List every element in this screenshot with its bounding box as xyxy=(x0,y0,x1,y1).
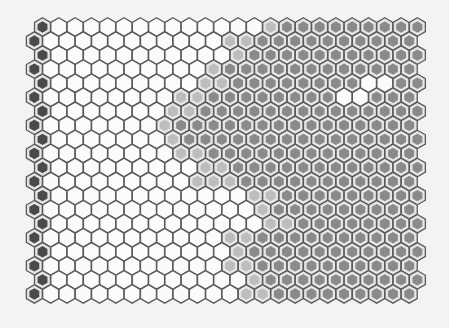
medium-gray-cell xyxy=(401,285,417,303)
white-cell xyxy=(108,285,124,303)
dark-marker xyxy=(26,285,42,303)
white-cell xyxy=(124,285,140,303)
light-gray-cell xyxy=(255,285,271,303)
white-cell xyxy=(222,285,238,303)
white-cell xyxy=(140,285,156,303)
medium-gray-cell xyxy=(320,285,336,303)
white-cell xyxy=(59,285,75,303)
white-cell xyxy=(43,285,59,303)
medium-gray-cell xyxy=(369,285,385,303)
hex-grid xyxy=(0,0,449,328)
medium-gray-cell xyxy=(352,285,368,303)
white-cell xyxy=(92,285,108,303)
medium-gray-cell xyxy=(336,285,352,303)
white-cell xyxy=(75,285,91,303)
medium-gray-cell xyxy=(303,285,319,303)
medium-gray-cell xyxy=(287,285,303,303)
medium-gray-cell xyxy=(271,285,287,303)
white-cell xyxy=(189,285,205,303)
medium-gray-cell xyxy=(385,285,401,303)
white-cell xyxy=(157,285,173,303)
light-gray-cell xyxy=(238,285,254,303)
hex-grid-figure xyxy=(0,0,449,328)
white-cell xyxy=(206,285,222,303)
white-cell xyxy=(173,285,189,303)
